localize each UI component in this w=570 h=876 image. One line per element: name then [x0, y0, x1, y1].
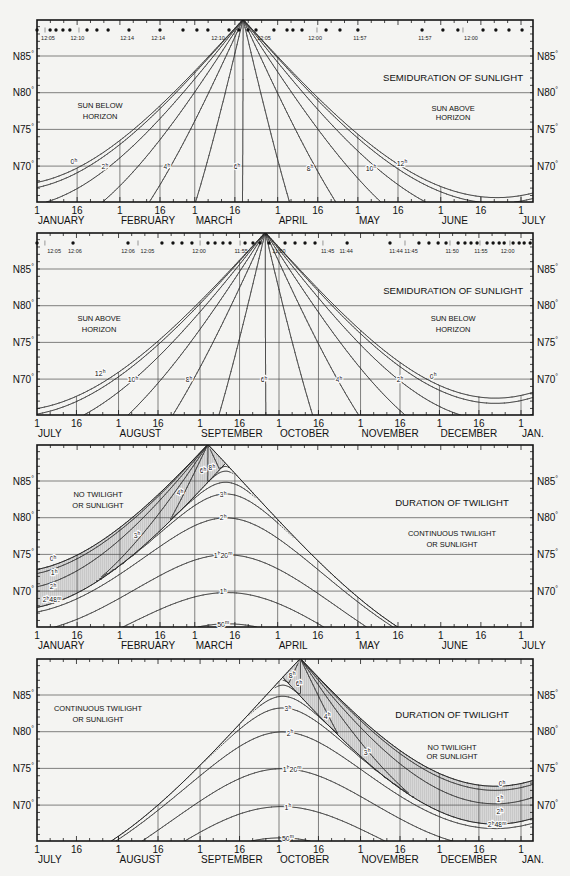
curve-8h — [243, 20, 335, 202]
curve-label: 3h — [285, 704, 292, 713]
month-label: JULY — [522, 215, 546, 226]
meridian-passage-dot — [61, 28, 64, 31]
curve-label: 2h — [220, 513, 227, 522]
day-number-label: 16 — [473, 844, 485, 855]
meridian-time-label: 12:00 — [464, 35, 478, 41]
month-label: JANUARY — [38, 215, 85, 226]
day-number-label: 16 — [312, 630, 324, 641]
meridian-passage-dot — [502, 241, 505, 244]
region-label: HORIZON — [83, 112, 118, 121]
latitude-label-left: N75° — [13, 762, 34, 774]
meridian-time-label: 12:06 — [68, 248, 82, 254]
meridian-passage-dot — [313, 241, 316, 244]
meridian-passage-dot — [258, 241, 261, 244]
meridian-passage-dot — [456, 241, 459, 244]
curve-6h — [265, 233, 266, 415]
region-label: OR SUNLIGHT — [426, 540, 478, 549]
curve-label: 10h — [366, 163, 377, 172]
meridian-time-label: 12:10 — [70, 35, 84, 41]
curve-label: 2h — [102, 162, 109, 171]
month-label: JANUARY — [38, 640, 85, 651]
meridian-passage-dot — [475, 241, 478, 244]
day-number-label: 16 — [392, 205, 404, 216]
meridian-passage-dot — [171, 241, 174, 244]
meridian-passage-dot — [254, 28, 257, 31]
month-label: DECEMBER — [440, 854, 497, 865]
day-number-label: 16 — [71, 844, 83, 855]
meridian-time-label: 12:00 — [308, 35, 322, 41]
meridian-passage-dot — [251, 241, 254, 244]
latitude-label-right: N75° — [537, 123, 558, 135]
region-label: HORIZON — [436, 113, 471, 122]
meridian-passage-dot — [444, 241, 447, 244]
curve-12h — [37, 233, 265, 409]
region-label: HORIZON — [436, 325, 471, 334]
meridian-passage-dot — [491, 241, 494, 244]
curve-label: 1h20m — [283, 764, 302, 773]
meridian-passage-dot — [427, 241, 430, 244]
curve-label: 2h48m — [488, 820, 507, 829]
meridian-time-label: 11:55 — [234, 248, 247, 254]
latitude-label-left: N85° — [13, 263, 34, 275]
curve-3h — [266, 233, 405, 415]
month-label: JAN. — [522, 428, 544, 439]
day-number-label: 16 — [394, 844, 406, 855]
polar-phenomena-charts: 1JANUARY161FEBRUARY161MARCH161APRIL161MA… — [0, 0, 570, 876]
day-number-label: 16 — [475, 205, 487, 216]
meridian-passage-dot — [469, 241, 472, 244]
meridian-time-label: 12:10 — [211, 35, 225, 41]
latitude-label-left: N70° — [13, 373, 34, 385]
meridian-passage-dot — [35, 28, 38, 31]
curves — [37, 445, 398, 627]
latitude-label-right: N70° — [537, 585, 558, 597]
meridian-passage-dot — [126, 241, 129, 244]
region-label: SUN ABOVE — [77, 314, 120, 323]
curve-label: 10h — [128, 375, 139, 384]
region-label: SUN ABOVE — [431, 104, 474, 113]
meridian-time-label: 11:45 — [404, 248, 417, 254]
region-label: CONTINUOUS TWILIGHT — [408, 529, 497, 538]
meridian-passage-dot — [221, 241, 224, 244]
month-label: MARCH — [196, 215, 233, 226]
region-label: NO TWILIGHT — [73, 490, 122, 499]
latitude-label-right: N75° — [537, 548, 558, 560]
meridian-passage-dot — [106, 28, 109, 31]
curve-5h — [265, 233, 312, 415]
curve-label: 0h — [50, 554, 57, 563]
latitude-label-left: N75° — [13, 336, 34, 348]
day-number-label: 16 — [154, 205, 166, 216]
meridian-passage-dot — [285, 28, 288, 31]
panel-duration-twilight-jan-jul: 1JANUARY161FEBRUARY161MARCH161APRIL161MA… — [13, 444, 559, 659]
latitude-label-right: N80° — [537, 511, 558, 523]
curve-label: 1h — [285, 802, 292, 811]
month-label: MAY — [359, 640, 380, 651]
meridian-time-label: 12:00 — [192, 248, 206, 254]
region-label: OR SUNLIGHT — [72, 715, 124, 724]
day-number-label: 16 — [392, 630, 404, 641]
curve-11h — [244, 20, 533, 202]
latitude-label-right: N70° — [537, 160, 558, 172]
curve-4h — [266, 233, 359, 415]
panel-title: SEMIDURATION OF SUNLIGHT — [383, 72, 523, 83]
latitude-label-left: N70° — [13, 585, 34, 597]
meridian-passage-dot — [456, 28, 459, 31]
panel-duration-twilight-jul-jan: 1JULY161AUGUST161SEPTEMBER161OCTOBER161N… — [13, 659, 559, 865]
panel-title: DURATION OF TWILIGHT — [395, 709, 509, 720]
region-label: CONTINUOUS TWILIGHT — [54, 704, 143, 713]
curve-label: 12h — [397, 158, 408, 167]
latitude-label-left: N80° — [13, 725, 34, 737]
curve-label: 8h — [186, 375, 193, 384]
month-label: NOVEMBER — [362, 428, 419, 439]
meridian-passage-dot — [190, 241, 193, 244]
month-label: JULY — [38, 428, 62, 439]
curve-6h — [243, 20, 244, 202]
latitude-label-right: N85° — [537, 475, 558, 487]
meridian-passage-dot — [213, 241, 216, 244]
meridian-passage-dot — [195, 28, 198, 31]
meridian-passage-row: 12:0512:0612:0612:0512:0011:5511:5011:45… — [35, 241, 532, 254]
day-number-label: 16 — [473, 418, 485, 429]
curve-label: 2h48m — [43, 595, 62, 604]
meridian-passage-dot — [246, 28, 249, 31]
day-number-label: 16 — [154, 630, 166, 641]
meridian-time-label: 12:05 — [47, 248, 61, 254]
